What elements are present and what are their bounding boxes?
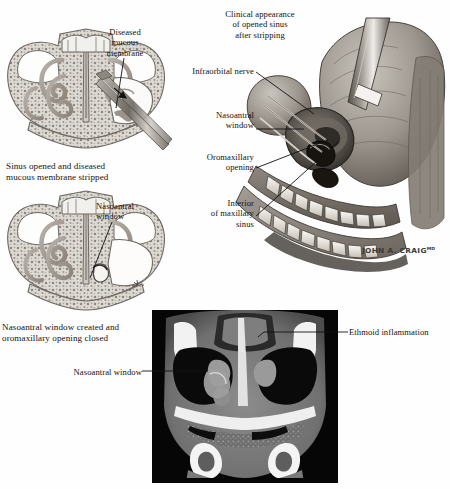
label-diseased-mucous-membrane: Diseased mucous membrane <box>92 27 158 58</box>
label-nasoantral-window-lower-left: Nasoantral window <box>96 201 160 222</box>
artist-signature-suffix: MD <box>427 246 435 251</box>
label-infraorbital-nerve: Infraorbital nerve <box>150 66 254 76</box>
caption-sinus-opened-stripped: Sinus opened and diseased mucous membran… <box>6 161 166 183</box>
caption-nasoantral-window-created: Nasoantral window created and oromaxilla… <box>2 322 172 344</box>
leader-ethmoid-inflammation <box>256 325 350 339</box>
label-nasoantral-window-ct: Nasoantral window <box>58 367 142 377</box>
artist-signature-name: JOHN A. CRAIG <box>362 247 427 255</box>
artist-signature: JOHN A. CRAIGMD <box>362 246 435 255</box>
title-clinical-appearance: Clinical appearance of opened sinus afte… <box>196 9 324 40</box>
label-nasoantral-window-3d: Nasoantral window <box>170 110 254 131</box>
leader-interior-of-maxillary-sinus <box>256 142 342 220</box>
label-ethmoid-inflammation: Ethmoid inflammation <box>349 327 449 337</box>
leader-nasoantral-window-ct <box>142 366 212 382</box>
leader-diseased-mucous-membrane <box>110 58 150 110</box>
illustration-plate: Diseased mucous membrane Sinus opened an… <box>0 0 450 489</box>
leader-infraorbital-nerve <box>256 70 318 118</box>
leader-nasoantral-window-lower-left <box>82 222 116 286</box>
leader-nasoantral-window-3d <box>256 126 308 134</box>
label-interior-of-maxillary-sinus: Interior of maxillary sinus <box>162 198 254 229</box>
label-oromaxillary-opening: Oromaxillary opening <box>164 152 254 173</box>
